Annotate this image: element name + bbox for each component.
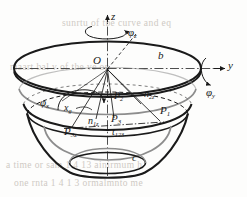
label-phi-z: φz xyxy=(128,27,137,40)
label-origin: O xyxy=(93,55,101,66)
label-z-axis: z xyxy=(111,11,115,22)
label-phi-x: φx xyxy=(40,97,49,110)
label-bottom-c: c xyxy=(132,152,137,163)
origin-marker xyxy=(106,68,108,70)
label-normal-2: n2z xyxy=(144,89,155,100)
phi-y-rotation-arrow xyxy=(201,58,210,85)
label-point-1: P3z xyxy=(64,126,77,139)
label-top-rim-b: b xyxy=(158,50,164,61)
label-normal-3: P2 xyxy=(114,91,123,102)
label-normal-1: n1z xyxy=(88,116,99,127)
label-phi-y: φy xyxy=(206,87,215,100)
label-tangent-123: t123 xyxy=(112,127,124,138)
label-axis-x: xg xyxy=(64,103,72,114)
label-point-3: P3 xyxy=(111,113,121,126)
phi-z-rotation-arrow xyxy=(85,27,126,39)
label-y-axis: y xyxy=(228,60,233,71)
label-point-2: P1 xyxy=(160,105,170,118)
figure-container: sunrtu of tbe curve and eq maart bal v o… xyxy=(0,0,247,197)
